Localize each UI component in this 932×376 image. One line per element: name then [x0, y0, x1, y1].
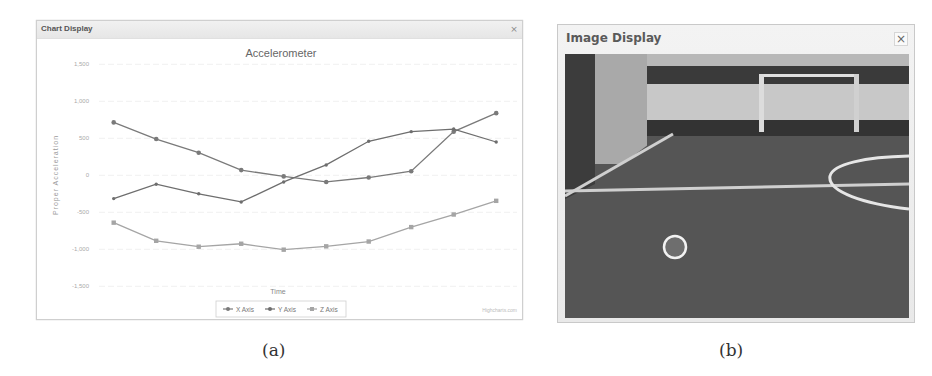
data-point[interactable] — [112, 197, 115, 200]
y-tick-label: 500 — [79, 135, 90, 141]
data-point[interactable] — [452, 127, 455, 130]
x-axis-title: Time — [270, 288, 285, 295]
y-tick-label: -500 — [77, 209, 90, 215]
close-button[interactable]: × — [894, 32, 908, 46]
data-point[interactable] — [155, 182, 158, 185]
series-z-axis[interactable] — [112, 199, 499, 252]
data-point[interactable] — [409, 169, 414, 174]
data-point[interactable] — [324, 180, 329, 185]
caption-a: (a) — [262, 340, 285, 360]
series-y-axis[interactable] — [112, 127, 498, 203]
image-window-title: Image Display — [566, 31, 661, 45]
data-point[interactable] — [452, 212, 456, 216]
accelerometer-chart: Accelerometer 1,5001,0005000-500-1,000-1… — [37, 21, 524, 321]
data-point[interactable] — [240, 200, 243, 203]
data-point[interactable] — [324, 244, 328, 248]
data-point[interactable] — [239, 242, 243, 246]
data-point[interactable] — [154, 239, 158, 243]
y-tick-label: -1,000 — [72, 246, 90, 252]
image-display-window: Image Display × — [557, 24, 915, 323]
data-point[interactable] — [367, 140, 370, 143]
chart-legend: X AxisY AxisZ Axis — [216, 301, 346, 317]
legend-label: Z Axis — [320, 306, 338, 313]
y-tick-label: -1,500 — [72, 283, 90, 289]
caption-b: (b) — [719, 340, 743, 360]
chart-series — [111, 111, 498, 252]
data-point[interactable] — [409, 225, 413, 229]
y-tick-label: 0 — [86, 172, 90, 178]
data-point[interactable] — [111, 120, 116, 125]
highcharts-credit[interactable]: Highcharts.com — [482, 307, 517, 313]
data-point[interactable] — [494, 111, 499, 116]
data-point[interactable] — [154, 137, 159, 142]
data-point[interactable] — [196, 150, 201, 155]
data-point[interactable] — [325, 163, 328, 166]
chart-title: Accelerometer — [246, 47, 317, 59]
data-point[interactable] — [197, 245, 201, 249]
data-point[interactable] — [494, 199, 498, 203]
ball — [664, 236, 686, 258]
data-point[interactable] — [367, 239, 371, 243]
chart-display-window: Chart Display × Accelerometer 1,5001,000… — [36, 20, 523, 320]
y-tick-label: 1,500 — [74, 61, 90, 67]
data-point[interactable] — [197, 192, 200, 195]
data-point[interactable] — [112, 220, 116, 224]
data-point[interactable] — [495, 140, 498, 143]
data-point[interactable] — [366, 175, 371, 180]
y-axis-title: Proper Acceleration — [52, 135, 60, 215]
chart-gridlines — [99, 64, 517, 286]
legend-label: Y Axis — [278, 306, 297, 313]
data-point[interactable] — [410, 130, 413, 133]
data-point[interactable] — [282, 247, 286, 251]
y-tick-label: 1,000 — [74, 98, 90, 104]
data-point[interactable] — [239, 168, 244, 173]
data-point[interactable] — [282, 180, 285, 183]
soccer-field-image — [565, 54, 909, 318]
legend-label: X Axis — [236, 306, 255, 313]
y-axis-labels: 1,5001,0005000-500-1,000-1,500 — [72, 61, 90, 289]
camera-image — [565, 54, 909, 318]
data-point[interactable] — [281, 174, 286, 179]
